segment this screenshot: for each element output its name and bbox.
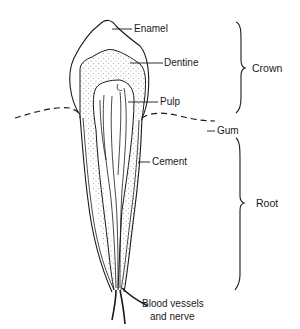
pulp-label: Pulp <box>160 96 180 107</box>
vessel-strand-1 <box>112 290 116 320</box>
root-region-label: Root <box>256 198 278 209</box>
gum-label: Gum <box>217 125 239 136</box>
crown-brace <box>236 22 245 113</box>
vessels-label-line2: and nerve <box>150 311 194 322</box>
crown-region-label: Crown <box>252 63 282 74</box>
enamel-label: Enamel <box>134 23 168 34</box>
tooth-diagram: Enamel Dentine Pulp Gum Cement Blood ves… <box>0 0 300 329</box>
gum-line-left <box>15 108 80 118</box>
vessel-strand-2 <box>120 290 125 324</box>
dentine-label: Dentine <box>164 57 198 68</box>
gum-line-right <box>142 113 215 121</box>
vessels-label-line1: Blood vessels <box>142 298 204 309</box>
tooth-drawing <box>0 0 300 329</box>
cement-label: Cement <box>152 156 187 167</box>
root-brace <box>235 138 244 290</box>
